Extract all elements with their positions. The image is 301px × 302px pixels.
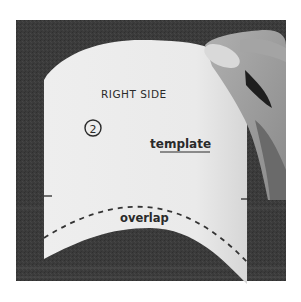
number-label: 2 (90, 123, 97, 136)
type-label: template (150, 137, 211, 151)
heading-label: RIGHT SIDE (101, 88, 167, 100)
overlap-label: overlap (120, 211, 169, 225)
template-photo: RIGHT SIDE 2 template overlap (0, 0, 301, 302)
